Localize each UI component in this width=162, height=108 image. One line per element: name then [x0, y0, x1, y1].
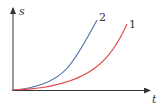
x-axis-label: t — [152, 93, 157, 106]
curve-2-label: 2 — [99, 11, 106, 24]
curve-1 — [13, 24, 127, 90]
curve-1-label: 1 — [129, 18, 136, 31]
curve-2 — [13, 20, 97, 90]
s-t-graph: s t 2 1 — [0, 0, 162, 108]
y-axis-label: s — [19, 5, 25, 18]
